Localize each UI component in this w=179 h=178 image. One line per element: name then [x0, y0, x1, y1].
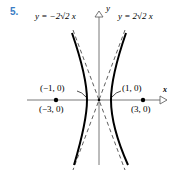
- vertex-right-pointer: [112, 91, 121, 97]
- vertex-right-label: (1, 0): [122, 83, 142, 93]
- y-axis-label: y: [106, 3, 110, 13]
- focus-left-label: (−3, 0): [39, 104, 64, 114]
- focus-right-point: [141, 98, 145, 102]
- asymptote-positive-label: y = 2√2 x: [118, 11, 153, 21]
- hyperbola-graph: [0, 0, 179, 178]
- focus-left-point: [54, 98, 58, 102]
- focus-right-label: (3, 0): [131, 104, 151, 114]
- x-axis-label: x: [163, 85, 167, 94]
- hyperbola-right-branch: [111, 33, 128, 165]
- y-axis-arrow-icon: [95, 11, 103, 17]
- asymptote-negative-label: y = −2√2 x: [35, 11, 76, 21]
- center-point: [98, 99, 101, 102]
- hyperbola-left-branch: [72, 33, 87, 165]
- x-axis-arrow-icon: [160, 96, 167, 104]
- vertex-left-pointer: [77, 91, 86, 97]
- vertex-left-label: (−1, 0): [40, 83, 65, 93]
